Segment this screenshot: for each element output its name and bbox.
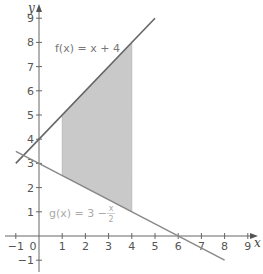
y-tick-label: 1 <box>27 206 34 219</box>
y-tick-label: 7 <box>27 61 34 74</box>
y-tick-label: −1 <box>18 254 34 267</box>
y-axis-label: y <box>27 1 35 15</box>
shaded-area <box>62 42 132 211</box>
y-tick-label: 6 <box>27 85 34 98</box>
x-tick-label: 1 <box>59 240 66 253</box>
f-label: f(x) = x + 4 <box>55 42 120 55</box>
x-axis-label: x <box>254 236 261 250</box>
plot-area: −1 0 1 2 3 4 5 6 7 8 9 x 9 8 7 6 5 4 3 2… <box>0 0 263 274</box>
y-axis-arrow-icon <box>36 4 42 12</box>
y-tick-label: 5 <box>27 109 34 122</box>
origin-label: 0 <box>30 240 37 253</box>
x-tick-label: 2 <box>82 240 89 253</box>
g-label-denominator: 2 <box>108 215 113 224</box>
x-tick-label: 9 <box>244 240 251 253</box>
chart: −1 0 1 2 3 4 5 6 7 8 9 x 9 8 7 6 5 4 3 2… <box>0 0 263 274</box>
x-tick-label: 6 <box>175 240 182 253</box>
y-tick-label: 4 <box>27 133 34 146</box>
y-tick-label: 8 <box>27 36 34 49</box>
x-tick-label: 5 <box>152 240 159 253</box>
y-tick-label: 2 <box>27 182 34 195</box>
x-tick-label: 4 <box>128 240 135 253</box>
x-tick-label: −1 <box>8 240 24 253</box>
x-tick-label: 3 <box>105 240 112 253</box>
x-tick-label: 8 <box>221 240 228 253</box>
g-label: g(x) = 3 − <box>49 207 107 220</box>
g-label-numerator: x <box>109 204 114 213</box>
